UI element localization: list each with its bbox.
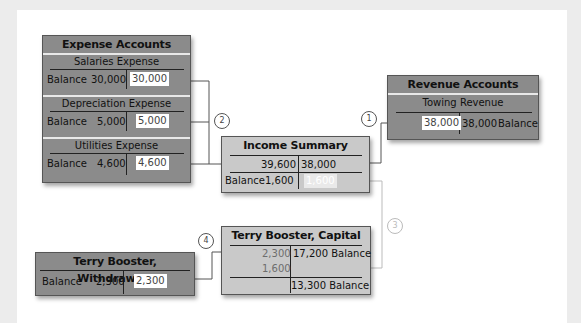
revenue-accounts-box: Revenue Accounts Towing Revenue 38,000 3… — [387, 75, 539, 140]
expense-accounts-title: Expense Accounts — [43, 36, 190, 53]
withdrawals-credit: 2,300 — [134, 274, 167, 288]
account-name: Depreciation Expense — [43, 97, 190, 111]
step-1-marker: 1 — [361, 111, 377, 127]
debit-value: 30,000 — [91, 73, 126, 87]
credit-value: 4,600 — [136, 156, 169, 170]
income-summary-credit: 38,000 — [301, 158, 336, 172]
expense-accounts-box: Expense Accounts Salaries Expense Balanc… — [42, 35, 191, 183]
revenue-debit-value: 38,000 — [422, 116, 461, 130]
step-2-marker: 2 — [214, 113, 230, 129]
utilities-expense-account: Utilities Expense Balance 4,600 4,600 — [43, 139, 190, 179]
capital-debit-withdrawals: 2,300 — [262, 247, 291, 261]
salaries-expense-account: Salaries Expense Balance 30,000 30,000 — [43, 55, 190, 95]
income-summary-closing-credit: 1,600 — [304, 174, 337, 188]
income-summary-debit: 39,600 — [261, 158, 296, 172]
account-name: Utilities Expense — [43, 139, 190, 153]
depreciation-expense-account: Depreciation Expense Balance 5,000 5,000 — [43, 97, 190, 137]
withdrawals-box: Terry Booster, Withdrawals Balance 2,300… — [35, 252, 195, 296]
income-summary-balance-label: Balance — [225, 174, 265, 188]
revenue-balance-label: Balance — [498, 117, 538, 131]
credit-value: 30,000 — [130, 72, 169, 86]
income-summary-balance-value: 1,600 — [265, 174, 294, 188]
balance-label: Balance — [47, 157, 87, 171]
revenue-accounts-title: Revenue Accounts — [388, 76, 538, 93]
step-3-marker: 3 — [387, 218, 403, 234]
step-4-marker: 4 — [198, 233, 214, 249]
capital-box: Terry Booster, Capital 2,300 17,200 Bala… — [221, 226, 371, 295]
capital-ending-balance: 13,300 Balance — [291, 279, 369, 293]
capital-debit-net-loss: 1,600 — [262, 262, 291, 276]
income-summary-title: Income Summary — [222, 137, 369, 155]
withdrawals-debit: 2,300 — [96, 275, 125, 289]
towing-revenue-name: Towing Revenue — [388, 96, 538, 110]
capital-credit-balance: 17,200 Balance — [293, 247, 371, 261]
account-name: Salaries Expense — [43, 55, 190, 69]
credit-value: 5,000 — [136, 114, 169, 128]
capital-title: Terry Booster, Capital — [222, 227, 370, 245]
balance-label: Balance — [47, 115, 87, 129]
debit-value: 5,000 — [97, 115, 126, 129]
revenue-credit-value: 38,000 — [462, 117, 497, 131]
balance-label: Balance — [47, 73, 87, 87]
withdrawals-balance-label: Balance — [42, 275, 82, 289]
debit-value: 4,600 — [97, 157, 126, 171]
income-summary-box: Income Summary 39,600 38,000 Balance 1,6… — [221, 136, 370, 193]
